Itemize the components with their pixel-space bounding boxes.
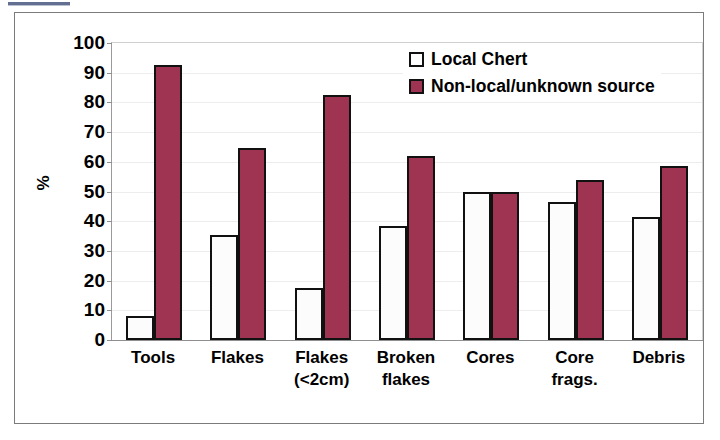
bar-local-chert-5[interactable] <box>548 202 576 340</box>
bar-local-chert-1[interactable] <box>210 235 238 340</box>
chart-legend: Local ChertNon-local/unknown source <box>403 45 661 102</box>
y-axis-tick-80: 80 <box>49 92 105 111</box>
legend-label: Non-local/unknown source <box>431 76 655 97</box>
legend-swatch-icon <box>409 79 424 94</box>
x-label-line: Tools <box>111 347 195 369</box>
bar-non-local-3[interactable] <box>407 156 435 340</box>
bar-non-local-0[interactable] <box>154 65 182 340</box>
x-label-3: Brokenflakes <box>364 347 448 392</box>
x-axis-line <box>111 340 703 341</box>
legend-swatch-icon <box>409 52 424 67</box>
bar-non-local-2[interactable] <box>323 95 351 340</box>
bar-group-flakes-2cm <box>295 43 351 340</box>
y-axis-tick-100: 100 <box>49 33 105 52</box>
y-axis-tick-0: 0 <box>49 330 105 349</box>
y-axis-tick-labels: 1009080706050403020100 <box>49 33 105 347</box>
x-label-0: Tools <box>111 347 195 369</box>
bar-local-chert-6[interactable] <box>632 217 660 340</box>
x-label-line: Flakes <box>280 347 364 369</box>
bar-non-local-6[interactable] <box>660 166 688 340</box>
x-label-5: Corefrags. <box>532 347 616 392</box>
x-label-1: Flakes <box>195 347 279 369</box>
bar-local-chert-2[interactable] <box>295 288 323 340</box>
x-label-line: Debris <box>617 347 701 369</box>
chart-frame: % 1009080706050403020100 ToolsFlakesFlak… <box>14 12 704 424</box>
bar-local-chert-3[interactable] <box>379 226 407 340</box>
bar-non-local-1[interactable] <box>238 148 266 340</box>
x-label-4: Cores <box>448 347 532 369</box>
y-axis-tick-30: 30 <box>49 240 105 259</box>
bar-local-chert-4[interactable] <box>463 192 491 341</box>
bar-local-chert-0[interactable] <box>126 316 154 340</box>
x-label-line: (<2cm) <box>280 369 364 391</box>
bar-group-flakes <box>210 43 266 340</box>
x-label-line: Flakes <box>195 347 279 369</box>
y-axis-tick-20: 20 <box>49 270 105 289</box>
y-axis-tick-50: 50 <box>49 181 105 200</box>
x-label-line: flakes <box>364 369 448 391</box>
y-axis-tick-10: 10 <box>49 300 105 319</box>
bar-non-local-5[interactable] <box>576 180 604 340</box>
legend-item-local-chert[interactable]: Local Chert <box>409 49 655 70</box>
x-axis-category-labels: ToolsFlakesFlakes(<2cm)BrokenflakesCores… <box>111 347 701 411</box>
legend-label: Local Chert <box>431 49 527 70</box>
legend-item-non-local[interactable]: Non-local/unknown source <box>409 76 655 97</box>
x-label-line: Core <box>532 347 616 369</box>
bar-group-tools <box>126 43 182 340</box>
bar-non-local-4[interactable] <box>491 192 519 341</box>
scan-artifact-line-secondary <box>8 5 70 6</box>
y-axis-tick-70: 70 <box>49 122 105 141</box>
x-label-6: Debris <box>617 347 701 369</box>
y-axis-tick-90: 90 <box>49 62 105 81</box>
y-axis-tick-40: 40 <box>49 211 105 230</box>
x-label-2: Flakes(<2cm) <box>280 347 364 392</box>
x-label-line: Cores <box>448 347 532 369</box>
y-axis-tick-60: 60 <box>49 151 105 170</box>
x-label-line: frags. <box>532 369 616 391</box>
x-label-line: Broken <box>364 347 448 369</box>
